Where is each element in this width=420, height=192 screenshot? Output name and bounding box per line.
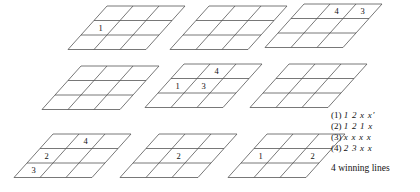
game-board[interactable] <box>42 66 138 110</box>
legend-line: (1) 1 2 x x′ <box>331 110 419 121</box>
game-board[interactable]: 413 <box>145 64 241 108</box>
board-grid-lines <box>265 4 373 64</box>
board-grid-lines <box>14 134 122 192</box>
legend-line-sequence: 2 3 x x <box>344 143 373 153</box>
legend-line: (4) 2 3 x x <box>331 143 419 154</box>
legend-line-sequence: x x x x <box>344 132 372 142</box>
game-board[interactable]: 1 <box>68 6 164 50</box>
legend-line-tag: (1) <box>331 110 344 120</box>
game-board[interactable]: 12 <box>228 134 324 178</box>
legend-line-sequence: 1 2 1 x <box>344 121 373 131</box>
game-board[interactable]: 43 <box>265 4 361 48</box>
board-grid-lines <box>120 134 228 192</box>
game-board[interactable]: 423 <box>14 134 110 178</box>
board-grid-lines <box>170 6 278 66</box>
board-grid-lines <box>42 66 150 126</box>
board-grid-lines <box>68 6 176 66</box>
legend-line: (2) 1 2 1 x <box>331 121 419 132</box>
board-grid-lines <box>145 64 253 124</box>
legend-line-tag: (2) <box>331 121 344 131</box>
game-board[interactable] <box>250 64 346 108</box>
legend-line-tag: (4) <box>331 143 344 153</box>
legend-line-tag: (3) <box>331 132 344 142</box>
legend-footer: 4 winning lines <box>331 163 419 174</box>
game-board[interactable] <box>170 6 266 50</box>
legend-line: (3) x x x x <box>331 132 419 143</box>
legend: (1) 1 2 x x′(2) 1 2 1 x(3) x x x x(4) 2 … <box>331 110 419 174</box>
legend-line-sequence: 1 2 x x′ <box>344 110 375 120</box>
game-board[interactable]: 2 <box>120 134 216 178</box>
board-grid-lines <box>228 134 336 192</box>
